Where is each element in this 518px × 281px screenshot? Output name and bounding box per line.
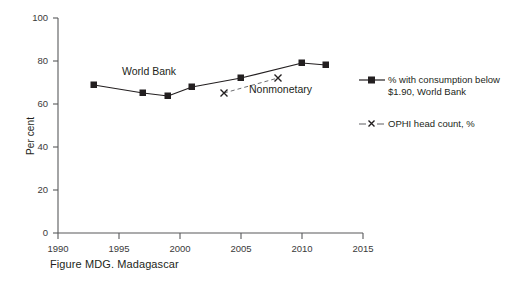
x-tick-label-1990: 1990	[38, 244, 78, 254]
x-tick-label-1995: 1995	[99, 244, 139, 254]
legend-label-world-bank-line1: % with consumption below	[388, 74, 500, 86]
y-tick-label-60: 60	[18, 99, 48, 109]
legend-key-x-dashed-line-icon	[358, 118, 388, 130]
legend-label-world-bank-line2: $1.90, World Bank	[388, 86, 500, 98]
figure-madagascar-poverty-chart: Per cent 100 80 60 40 20 0 1990 1995 200…	[0, 0, 518, 281]
x-tick-label-2010: 2010	[282, 244, 322, 254]
y-tick-label-40: 40	[18, 142, 48, 152]
y-tick-label-0: 0	[18, 228, 48, 238]
legend-label-ophi: OPHI head count, %	[388, 118, 475, 130]
x-axis-ticks	[58, 233, 363, 239]
x-tick-label-2005: 2005	[221, 244, 261, 254]
annotation-world-bank: World Bank	[122, 66, 176, 77]
chart-plot-area	[0, 0, 518, 281]
y-tick-label-80: 80	[18, 56, 48, 66]
figure-caption: Figure MDG. Madagascar	[50, 259, 179, 270]
legend-item-ophi: OPHI head count, %	[358, 118, 516, 130]
y-tick-label-20: 20	[18, 185, 48, 195]
annotation-nonmonetary: Nonmonetary	[249, 84, 312, 95]
y-tick-label-100: 100	[18, 13, 48, 23]
legend-key-square-solid-line-icon	[358, 74, 388, 86]
legend-label-world-bank: % with consumption below $1.90, World Ba…	[388, 74, 500, 97]
chart-legend: % with consumption below $1.90, World Ba…	[358, 74, 516, 130]
legend-label-ophi-line1: OPHI head count, %	[388, 118, 475, 130]
y-axis-ticks	[53, 18, 58, 233]
axis-lines	[58, 18, 363, 233]
x-tick-label-2000: 2000	[160, 244, 200, 254]
legend-item-world-bank: % with consumption below $1.90, World Ba…	[358, 74, 516, 97]
x-tick-label-2015: 2015	[343, 244, 383, 254]
